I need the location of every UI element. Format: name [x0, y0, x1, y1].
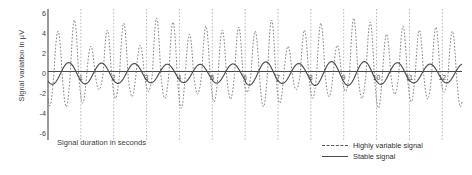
x-tick-label: 12	[439, 75, 446, 82]
x-tick-label: 4	[178, 75, 182, 82]
x-tick-label: 2	[112, 75, 116, 82]
x-tick-label: 11	[406, 75, 413, 82]
chart-figure: Signal variation in µV 6420-2-4-6 123456…	[0, 0, 472, 175]
legend-item-stable-signal: Stable signal	[322, 151, 423, 162]
x-tick-label: 7	[276, 75, 280, 82]
legend-item-highly-variable-signal: Highly variable signal	[322, 140, 423, 151]
legend-label-stable-signal: Stable signal	[353, 153, 395, 160]
x-tick-label: 6	[243, 75, 247, 82]
x-tick-label: 3	[145, 75, 149, 82]
x-tick-label: 10	[373, 75, 380, 82]
x-tick-label: 5	[210, 75, 214, 82]
x-axis-title: Signal duration in seconds	[57, 139, 146, 147]
x-tick-label: 8	[309, 75, 313, 82]
x-tick-label: 1	[79, 75, 83, 82]
solid-line-icon	[322, 153, 348, 160]
x-tick-label: 9	[342, 75, 346, 82]
chart-legend: Highly variable signal Stable signal	[322, 140, 423, 162]
dashed-line-icon	[322, 142, 348, 149]
legend-label-highly-variable-signal: Highly variable signal	[353, 142, 423, 149]
